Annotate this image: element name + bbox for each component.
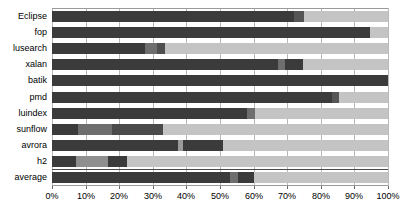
x-axis: 0%10%20%30%40%50%60%70%80%90%100% bbox=[52, 186, 388, 208]
x-axis-tick-label: 100% bbox=[376, 191, 399, 201]
bar-pmd bbox=[52, 92, 388, 103]
bar-segment bbox=[255, 108, 388, 119]
y-axis-label-fop: fop bbox=[34, 27, 47, 38]
x-axis-tick bbox=[153, 186, 154, 189]
bar-segment bbox=[278, 59, 285, 70]
bar-segment bbox=[370, 27, 388, 38]
y-axis-label-luindex: luindex bbox=[18, 108, 47, 119]
bar-h2 bbox=[52, 156, 388, 167]
bar-average bbox=[52, 172, 388, 183]
bar-rows bbox=[52, 8, 388, 186]
bar-segment bbox=[145, 43, 157, 54]
plot-area bbox=[52, 8, 388, 186]
bar-segment bbox=[304, 11, 388, 22]
x-axis-tick-label: 60% bbox=[245, 191, 263, 201]
x-axis-tick-label: 70% bbox=[278, 191, 296, 201]
y-axis-label-pmd: pmd bbox=[29, 92, 47, 103]
bar-xalan bbox=[52, 59, 388, 70]
x-axis-tick bbox=[321, 186, 322, 189]
bar-avrora bbox=[52, 140, 388, 151]
bar-fop bbox=[52, 27, 388, 38]
y-axis-label-h2: h2 bbox=[37, 156, 47, 167]
bar-segment bbox=[254, 172, 388, 183]
bar-segment bbox=[52, 11, 294, 22]
bar-segment bbox=[165, 43, 388, 54]
bar-segment bbox=[52, 108, 247, 119]
bar-segment bbox=[339, 92, 388, 103]
bar-segment bbox=[247, 108, 255, 119]
x-axis-tick bbox=[86, 186, 87, 189]
x-axis-tick bbox=[354, 186, 355, 189]
x-axis-tick-label: 0% bbox=[45, 191, 58, 201]
x-axis-tick bbox=[388, 186, 389, 189]
x-axis-tick-label: 20% bbox=[110, 191, 128, 201]
bar-segment bbox=[183, 140, 223, 151]
bar-segment bbox=[52, 27, 370, 38]
y-axis-category-labels: Eclipsefoplusearchxalanbatikpmdluindexsu… bbox=[0, 8, 50, 186]
bar-segment bbox=[157, 43, 165, 54]
x-axis-tick-label: 50% bbox=[211, 191, 229, 201]
x-axis-tick-label: 90% bbox=[345, 191, 363, 201]
x-axis-tick bbox=[186, 186, 187, 189]
bar-segment bbox=[303, 59, 388, 70]
average-separator-line bbox=[52, 169, 388, 170]
bar-segment bbox=[223, 140, 388, 151]
y-axis-label-sunflow: sunflow bbox=[16, 124, 47, 135]
y-axis-label-average: average bbox=[14, 172, 47, 183]
bar-segment bbox=[52, 156, 76, 167]
bar-segment bbox=[52, 75, 388, 86]
bar-segment bbox=[285, 59, 303, 70]
x-axis-tick-label: 80% bbox=[312, 191, 330, 201]
bar-segment bbox=[127, 156, 388, 167]
bar-segment bbox=[76, 156, 108, 167]
x-axis-tick bbox=[119, 186, 120, 189]
x-axis-tick bbox=[254, 186, 255, 189]
bar-segment bbox=[52, 59, 278, 70]
bar-segment bbox=[112, 124, 163, 135]
x-axis-tick-label: 40% bbox=[177, 191, 195, 201]
gridline bbox=[388, 8, 389, 186]
bar-eclipse bbox=[52, 11, 388, 22]
x-axis-tick bbox=[220, 186, 221, 189]
y-axis-label-avrora: avrora bbox=[21, 140, 47, 151]
bar-segment bbox=[52, 172, 230, 183]
bar-batik bbox=[52, 75, 388, 86]
bar-segment bbox=[332, 92, 339, 103]
y-axis-label-lusearch: lusearch bbox=[13, 43, 47, 54]
bar-lusearch bbox=[52, 43, 388, 54]
bar-segment bbox=[163, 124, 388, 135]
bar-segment bbox=[52, 124, 78, 135]
x-axis-tick-label: 10% bbox=[77, 191, 95, 201]
bar-sunflow bbox=[52, 124, 388, 135]
bar-segment bbox=[108, 156, 127, 167]
bar-luindex bbox=[52, 108, 388, 119]
bar-segment bbox=[78, 124, 112, 135]
bar-segment bbox=[52, 92, 332, 103]
y-axis-label-eclipse: Eclipse bbox=[18, 11, 47, 22]
x-axis-tick bbox=[287, 186, 288, 189]
bar-segment bbox=[238, 172, 254, 183]
y-axis-label-xalan: xalan bbox=[25, 59, 47, 70]
x-axis-tick-label: 30% bbox=[144, 191, 162, 201]
x-axis-tick bbox=[52, 186, 53, 189]
bar-segment bbox=[52, 140, 178, 151]
bar-segment bbox=[230, 172, 238, 183]
bar-segment bbox=[52, 43, 145, 54]
y-axis-label-batik: batik bbox=[28, 75, 47, 86]
stacked-bar-chart: Eclipsefoplusearchxalanbatikpmdluindexsu… bbox=[0, 0, 405, 221]
bar-segment bbox=[294, 11, 304, 22]
